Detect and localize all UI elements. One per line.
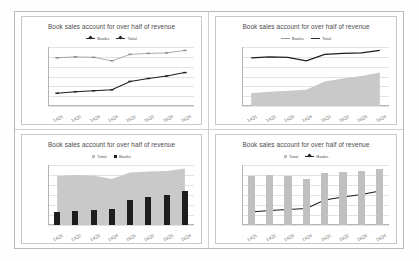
chart-1-legend: Books Total — [22, 36, 201, 41]
legend-item-total[interactable]: Total — [311, 36, 331, 41]
chart-3[interactable]: Book sales account for over half of reve… — [21, 134, 202, 244]
bar-swatch-icon — [114, 155, 117, 158]
x-tick-label: 15Q1 — [320, 233, 332, 242]
data-point-marker — [74, 91, 78, 92]
x-tick-label: 15Q3 — [357, 114, 369, 123]
chart-2-legend: Books Total — [216, 36, 396, 41]
data-point-marker — [92, 57, 96, 58]
bar — [54, 212, 60, 225]
data-point-marker — [183, 72, 187, 73]
legend-label-total: Total — [322, 36, 331, 41]
x-tick-label: 15Q3 — [162, 233, 174, 242]
legend-label-books: Books — [316, 154, 328, 159]
line-marker-swatch-icon — [305, 156, 314, 158]
x-tick-label: 14Q2 — [265, 114, 277, 123]
document-frame: Book sales account for over half of reve… — [14, 11, 404, 249]
data-point-marker — [165, 52, 169, 53]
data-point-marker — [92, 90, 96, 91]
slide-canvas: Book sales account for over half of reve… — [0, 0, 419, 261]
x-tick-label: 15Q4 — [180, 233, 192, 242]
line-marker-swatch-icon — [86, 38, 95, 40]
chart-2[interactable]: Book sales account for over half of reve… — [215, 16, 397, 125]
data-point-marker — [55, 57, 59, 58]
chart-4-legend: Total Books — [216, 154, 396, 159]
x-tick-label: 15Q1 — [320, 114, 332, 123]
line-series — [251, 50, 380, 60]
gridline — [242, 225, 389, 226]
x-tick-label: 15Q1 — [125, 233, 137, 242]
chart-panel-3[interactable]: Book sales account for over half of reve… — [15, 130, 209, 248]
data-point-marker — [74, 56, 78, 57]
legend-item-books[interactable]: Books — [281, 36, 304, 41]
bar — [248, 176, 255, 225]
chart-panel-1[interactable]: Book sales account for over half of reve… — [15, 12, 209, 130]
chart-panel-4[interactable]: Book sales account for over half of reve… — [209, 130, 403, 248]
bar-swatch-icon — [284, 155, 287, 158]
chart-4[interactable]: Book sales account for over half of reve… — [215, 134, 397, 244]
legend-item-total[interactable]: Total — [116, 36, 136, 41]
x-tick-label: 15Q4 — [375, 233, 387, 242]
bar — [266, 175, 273, 225]
chart-4-title: Book sales account for over half of reve… — [216, 141, 396, 148]
legend-item-total[interactable]: Total — [92, 154, 107, 159]
data-point-marker — [110, 60, 114, 61]
x-tick-label: 15Q2 — [338, 233, 350, 242]
chart-4-x-axis-labels: 14Q114Q214Q314Q415Q115Q215Q315Q4 — [216, 227, 396, 243]
x-tick-label: 15Q2 — [144, 233, 156, 242]
line-series — [57, 50, 185, 60]
x-tick-label: 15Q1 — [125, 114, 137, 123]
x-tick-label: 15Q2 — [144, 114, 156, 123]
bar — [182, 191, 188, 225]
data-point-marker — [110, 89, 114, 90]
legend-item-total[interactable]: Total — [284, 154, 299, 159]
chart-3-x-axis-labels: 14Q114Q214Q314Q415Q115Q215Q315Q4 — [22, 227, 201, 243]
x-tick-label: 15Q4 — [375, 114, 387, 123]
x-tick-label: 15Q3 — [162, 114, 174, 123]
gridline — [242, 106, 389, 107]
area-swatch-icon — [92, 155, 95, 158]
chart-1-title: Book sales account for over half of reve… — [22, 23, 201, 30]
bar — [339, 172, 346, 226]
data-point-marker — [128, 54, 132, 55]
data-point-marker — [165, 75, 169, 76]
x-tick-label: 14Q2 — [71, 114, 83, 123]
x-tick-label: 14Q3 — [283, 233, 295, 242]
bar — [376, 169, 383, 226]
chart-3-plot-area — [48, 165, 194, 225]
bar — [358, 171, 365, 225]
chart-2-title: Book sales account for over half of reve… — [216, 23, 396, 30]
x-tick-label: 14Q1 — [246, 233, 258, 242]
x-tick-label: 14Q3 — [89, 233, 101, 242]
gridline — [48, 225, 194, 226]
chart-4-plot-area — [242, 165, 389, 225]
chart-2-x-axis-labels: 14Q114Q214Q314Q415Q115Q215Q315Q4 — [216, 108, 396, 124]
legend-item-books[interactable]: Books — [86, 36, 109, 41]
x-tick-label: 14Q1 — [246, 114, 258, 123]
gridline — [48, 106, 194, 107]
legend-item-books[interactable]: Books — [114, 154, 132, 159]
bar — [72, 211, 78, 226]
legend-label-total: Total — [127, 36, 136, 41]
x-tick-label: 14Q3 — [89, 114, 101, 123]
chart-3-legend: Total Books — [22, 154, 201, 159]
data-point-marker — [55, 93, 59, 94]
x-tick-label: 14Q2 — [71, 233, 83, 242]
legend-item-books[interactable]: Books — [305, 154, 328, 159]
chart-panel-2[interactable]: Book sales account for over half of reve… — [209, 12, 403, 130]
chart-grid: Book sales account for over half of reve… — [15, 12, 403, 248]
legend-label-books: Books — [292, 36, 304, 41]
data-point-marker — [183, 50, 187, 51]
data-point-marker — [128, 81, 132, 82]
line-swatch-icon — [311, 38, 320, 40]
chart-1-x-axis-labels: 14Q114Q214Q314Q415Q115Q215Q315Q4 — [22, 108, 201, 124]
x-tick-label: 14Q2 — [265, 233, 277, 242]
bar — [284, 176, 291, 226]
chart-2-plot-area — [242, 47, 389, 106]
x-tick-label: 14Q4 — [301, 114, 313, 123]
x-tick-label: 14Q1 — [52, 233, 64, 242]
bar — [145, 197, 151, 225]
bar — [164, 195, 170, 226]
x-tick-label: 14Q4 — [107, 233, 119, 242]
line-swatch-icon — [281, 38, 290, 39]
chart-1[interactable]: Book sales account for over half of reve… — [21, 16, 202, 125]
